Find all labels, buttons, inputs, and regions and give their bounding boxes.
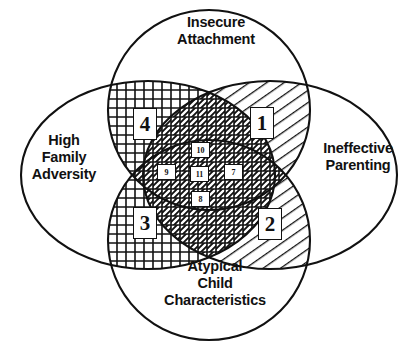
label-high-family-adversity: High Family Adversity: [16, 132, 112, 182]
region-number-10: 10: [191, 142, 210, 158]
region-number-7: 7: [224, 164, 243, 180]
label-atypical-child-characteristics-line2: Child: [145, 275, 285, 292]
label-ineffective-parenting-line1: Ineffective: [300, 140, 416, 157]
venn-diagram-figure: Insecure Attachment High Family Adversit…: [0, 0, 418, 351]
region-number-3: 3: [133, 207, 157, 239]
region-number-4: 4: [133, 108, 157, 140]
region-number-2: 2: [258, 208, 282, 240]
label-atypical-child-characteristics: Atypical Child Characteristics: [145, 258, 285, 308]
label-high-family-adversity-line3: Adversity: [16, 166, 112, 183]
label-insecure-attachment: Insecure Attachment: [157, 14, 275, 48]
label-insecure-attachment-line1: Insecure: [157, 14, 275, 31]
figure-caption-partial: [0, 340, 418, 351]
label-atypical-child-characteristics-line1: Atypical: [145, 258, 285, 275]
label-high-family-adversity-line2: Family: [16, 149, 112, 166]
region-number-9: 9: [157, 164, 176, 180]
label-high-family-adversity-line1: High: [16, 132, 112, 149]
region-number-1: 1: [250, 107, 274, 139]
region-number-8: 8: [191, 191, 210, 207]
label-ineffective-parenting: Ineffective Parenting: [300, 140, 416, 174]
label-insecure-attachment-line2: Attachment: [157, 31, 275, 48]
label-atypical-child-characteristics-line3: Characteristics: [145, 292, 285, 309]
region-number-11: 11: [190, 166, 209, 182]
label-ineffective-parenting-line2: Parenting: [300, 157, 416, 174]
